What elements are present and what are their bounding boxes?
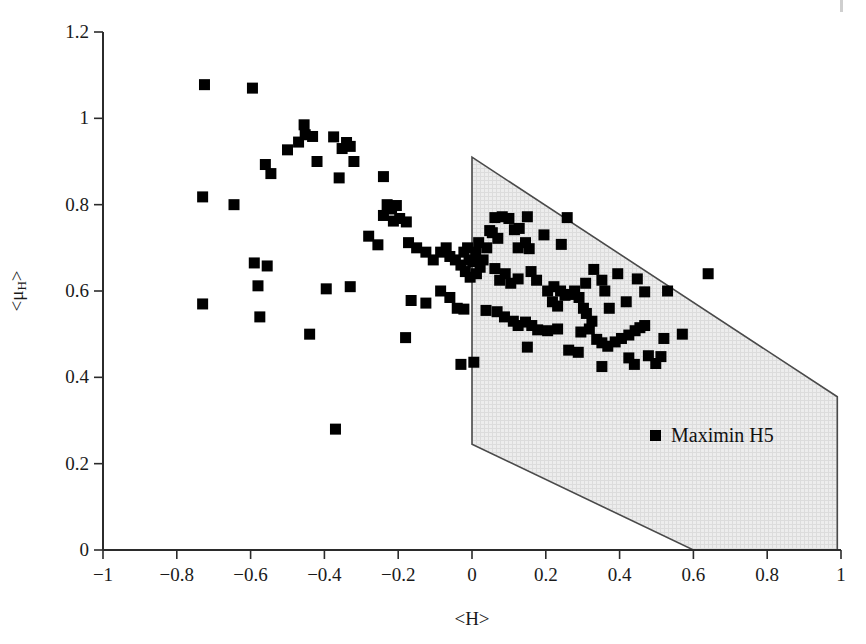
data-point-marker: [400, 332, 411, 343]
data-point-marker: [639, 286, 650, 297]
data-point-marker: [538, 229, 549, 240]
data-point-marker: [532, 324, 543, 335]
data-point-marker: [524, 243, 535, 254]
data-point-marker: [552, 323, 563, 334]
data-point-marker: [420, 298, 431, 309]
data-point-marker: [596, 275, 607, 286]
data-point-marker: [703, 268, 714, 279]
x-tick-label: 0.8: [755, 564, 779, 586]
data-point-marker: [328, 131, 339, 142]
data-point-marker: [596, 361, 607, 372]
data-point-marker: [531, 275, 542, 286]
x-tick-label: 0: [467, 564, 477, 586]
data-point-marker: [494, 275, 505, 286]
data-point-marker: [599, 286, 610, 297]
data-point-marker: [556, 239, 567, 250]
data-point-marker: [588, 264, 599, 275]
y-tick-label: 0: [0, 539, 89, 561]
data-point-marker: [655, 351, 666, 362]
data-point-marker: [468, 357, 479, 368]
data-point-marker: [580, 278, 591, 289]
data-point-marker: [509, 224, 520, 235]
data-point-marker: [348, 156, 359, 167]
data-point-marker: [334, 172, 345, 183]
data-point-marker: [304, 329, 315, 340]
data-point-marker: [522, 342, 533, 353]
y-tick-label: 1.2: [0, 21, 89, 43]
data-point-marker: [455, 359, 466, 370]
data-point-marker: [197, 298, 208, 309]
data-point-marker: [629, 359, 640, 370]
y-tick-label: 0.2: [0, 453, 89, 475]
data-point-marker: [378, 210, 389, 221]
data-point-marker: [307, 131, 318, 142]
data-point-marker: [677, 329, 688, 340]
x-tick-label: 0.2: [534, 564, 558, 586]
data-point-marker: [254, 311, 265, 322]
data-point-marker: [321, 283, 332, 294]
x-tick-label: 0.4: [608, 564, 632, 586]
data-point-marker: [621, 296, 632, 307]
data-point-marker: [345, 281, 356, 292]
data-point-marker: [489, 263, 500, 274]
legend-marker-square: [650, 430, 661, 441]
data-point-marker: [252, 280, 263, 291]
data-point-marker: [282, 144, 293, 155]
data-point-marker: [406, 295, 417, 306]
data-point-marker: [265, 168, 276, 179]
data-point-marker: [542, 325, 553, 336]
x-tick-label: 0.6: [682, 564, 706, 586]
data-point-marker: [401, 216, 412, 227]
y-axis-title-subscript: H: [14, 281, 29, 290]
y-tick-label: 0.8: [0, 194, 89, 216]
y-axis-title-prefix: <μ: [6, 291, 27, 312]
x-tick-label: −0.2: [381, 564, 415, 586]
data-point-marker: [612, 268, 623, 279]
data-point-marker: [632, 273, 643, 284]
data-point-marker: [458, 304, 469, 315]
x-tick-label: −0.6: [233, 564, 267, 586]
y-tick-label: 0.4: [0, 366, 89, 388]
data-point-marker: [574, 292, 585, 303]
data-point-marker: [563, 345, 574, 356]
data-point-marker: [444, 292, 455, 303]
data-point-marker: [249, 257, 260, 268]
data-point-marker: [492, 233, 503, 244]
data-point-marker: [552, 301, 563, 312]
legend-label: Maximin H5: [671, 424, 774, 447]
plot-canvas: [0, 0, 866, 644]
legend: Maximin H5: [650, 424, 774, 447]
x-tick-label: −0.4: [307, 564, 341, 586]
data-point-marker: [330, 424, 341, 435]
data-point-marker: [197, 191, 208, 202]
data-point-marker: [658, 333, 669, 344]
data-point-marker: [262, 260, 273, 271]
x-axis-title: <H>: [454, 608, 489, 630]
data-point-marker: [299, 119, 310, 130]
data-point-marker: [522, 211, 533, 222]
data-point-marker: [312, 156, 323, 167]
data-point-marker: [481, 242, 492, 253]
data-point-marker: [293, 137, 304, 148]
data-point-marker: [573, 347, 584, 358]
data-point-marker: [345, 141, 356, 152]
data-point-marker: [604, 303, 615, 314]
x-tick-label: −1: [93, 564, 113, 586]
data-point-marker: [639, 320, 650, 331]
data-point-marker: [584, 323, 595, 334]
data-point-marker: [562, 212, 573, 223]
data-point-marker: [662, 286, 673, 297]
data-point-marker: [247, 83, 258, 94]
data-point-marker: [378, 171, 389, 182]
data-point-marker: [513, 273, 524, 284]
data-point-marker: [372, 239, 383, 250]
scan-artifact-mark: [840, 0, 843, 12]
data-point-marker: [229, 199, 240, 210]
data-point-marker: [478, 254, 489, 265]
data-point-marker: [391, 200, 402, 211]
data-point-marker: [481, 305, 492, 316]
data-point-marker: [199, 79, 210, 90]
y-tick-label: 1: [0, 107, 89, 129]
y-axis-title-suffix: >: [6, 270, 27, 281]
data-point-marker: [503, 213, 514, 224]
